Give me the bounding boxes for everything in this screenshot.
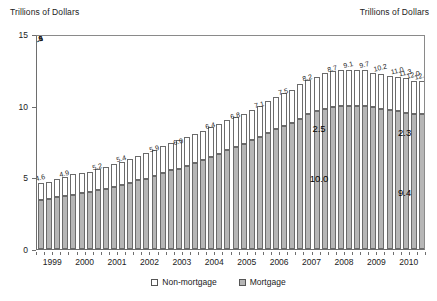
bar-segment-mortgage[interactable] xyxy=(233,147,239,249)
bar-segment-mortgage[interactable] xyxy=(346,106,352,249)
bar-segment-mortgage[interactable] xyxy=(127,183,133,249)
bar-segment-mortgage[interactable] xyxy=(79,193,85,249)
bar-segment-mortgage[interactable] xyxy=(160,173,166,249)
stacked-bar[interactable] xyxy=(38,183,44,249)
bar-segment-non-mortgage[interactable] xyxy=(38,183,44,200)
bar-segment-mortgage[interactable] xyxy=(168,170,174,249)
bar-segment-mortgage[interactable] xyxy=(387,110,393,249)
bar-segment-non-mortgage[interactable] xyxy=(322,73,328,109)
bar-segment-mortgage[interactable] xyxy=(281,126,287,249)
bar-segment-non-mortgage[interactable] xyxy=(79,173,85,193)
bar-segment-non-mortgage[interactable] xyxy=(111,164,117,187)
stacked-bar[interactable] xyxy=(135,156,141,249)
stacked-bar[interactable] xyxy=(322,73,328,249)
bar-segment-mortgage[interactable] xyxy=(289,123,295,249)
stacked-bar[interactable] xyxy=(119,162,125,249)
bar-segment-non-mortgage[interactable] xyxy=(95,169,101,191)
stacked-bar[interactable] xyxy=(200,131,206,249)
stacked-bar[interactable] xyxy=(241,114,247,249)
bar-segment-non-mortgage[interactable] xyxy=(192,134,198,163)
bar-segment-mortgage[interactable] xyxy=(152,176,158,249)
stacked-bar[interactable] xyxy=(192,134,198,249)
bar-segment-mortgage[interactable] xyxy=(378,109,384,249)
bar-segment-mortgage[interactable] xyxy=(265,133,271,249)
bar-segment-mortgage[interactable] xyxy=(273,129,279,249)
legend-item[interactable]: Non-mortgage xyxy=(151,277,216,287)
stacked-bar[interactable] xyxy=(233,117,239,249)
stacked-bar[interactable] xyxy=(224,120,230,249)
bar-segment-mortgage[interactable] xyxy=(143,179,149,249)
stacked-bar[interactable] xyxy=(87,172,93,249)
bar-segment-mortgage[interactable] xyxy=(241,144,247,249)
bar-segment-mortgage[interactable] xyxy=(249,140,255,249)
stacked-bar[interactable] xyxy=(395,77,401,249)
stacked-bar[interactable] xyxy=(305,80,311,249)
bar-segment-mortgage[interactable] xyxy=(46,199,52,249)
stacked-bar[interactable] xyxy=(127,159,133,249)
stacked-bar[interactable] xyxy=(289,90,295,249)
bar-segment-mortgage[interactable] xyxy=(354,106,360,249)
stacked-bar[interactable] xyxy=(168,143,174,249)
bar-segment-mortgage[interactable] xyxy=(419,114,424,249)
stacked-bar[interactable] xyxy=(346,70,352,249)
bar-segment-mortgage[interactable] xyxy=(411,114,417,249)
stacked-bar[interactable] xyxy=(79,173,85,249)
stacked-bar[interactable] xyxy=(297,84,303,249)
legend-item[interactable]: Mortgage xyxy=(239,277,286,287)
bar-segment-mortgage[interactable] xyxy=(362,106,368,249)
bar-segment-mortgage[interactable] xyxy=(176,169,182,249)
bar-segment-non-mortgage[interactable] xyxy=(143,153,149,179)
bar-segment-non-mortgage[interactable] xyxy=(411,81,417,114)
bar-segment-non-mortgage[interactable] xyxy=(354,70,360,106)
bar-segment-non-mortgage[interactable] xyxy=(289,90,295,123)
stacked-bar[interactable] xyxy=(208,127,214,249)
bar-segment-mortgage[interactable] xyxy=(111,187,117,249)
stacked-bar[interactable] xyxy=(249,110,255,249)
stacked-bar[interactable] xyxy=(378,74,384,249)
bar-segment-non-mortgage[interactable] xyxy=(87,172,93,192)
bar-segment-non-mortgage[interactable] xyxy=(362,70,368,106)
bar-segment-mortgage[interactable] xyxy=(216,154,222,249)
bar-segment-non-mortgage[interactable] xyxy=(70,174,76,194)
bar-segment-mortgage[interactable] xyxy=(62,196,68,249)
stacked-bar[interactable] xyxy=(216,124,222,249)
bar-segment-mortgage[interactable] xyxy=(95,190,101,249)
stacked-bar[interactable] xyxy=(62,177,68,249)
stacked-bar[interactable] xyxy=(257,106,263,249)
bar-segment-mortgage[interactable] xyxy=(184,166,190,249)
bar-segment-non-mortgage[interactable] xyxy=(184,137,190,166)
bar-segment-non-mortgage[interactable] xyxy=(62,177,68,196)
bar-segment-mortgage[interactable] xyxy=(103,189,109,249)
bar-segment-non-mortgage[interactable] xyxy=(387,76,393,110)
bar-segment-non-mortgage[interactable] xyxy=(208,127,214,157)
stacked-bar[interactable] xyxy=(330,71,336,249)
stacked-bar[interactable] xyxy=(354,70,360,249)
stacked-bar[interactable] xyxy=(265,101,271,249)
bar-segment-mortgage[interactable] xyxy=(330,107,336,249)
bar-segment-non-mortgage[interactable] xyxy=(152,150,158,176)
bar-segment-non-mortgage[interactable] xyxy=(281,93,287,126)
bar-segment-mortgage[interactable] xyxy=(208,157,214,249)
stacked-bar[interactable] xyxy=(103,167,109,249)
stacked-bar[interactable] xyxy=(281,93,287,249)
bar-segment-non-mortgage[interactable] xyxy=(330,71,336,107)
bar-segment-mortgage[interactable] xyxy=(70,195,76,249)
stacked-bar[interactable] xyxy=(362,70,368,249)
stacked-bar[interactable] xyxy=(338,70,344,249)
bar-segment-non-mortgage[interactable] xyxy=(216,124,222,154)
bar-segment-non-mortgage[interactable] xyxy=(103,167,109,189)
stacked-bar[interactable] xyxy=(46,182,52,249)
bar-segment-non-mortgage[interactable] xyxy=(395,77,401,111)
stacked-bar[interactable] xyxy=(54,179,60,249)
bar-segment-non-mortgage[interactable] xyxy=(265,101,271,133)
bar-segment-mortgage[interactable] xyxy=(135,180,141,249)
bar-segment-non-mortgage[interactable] xyxy=(305,80,311,114)
bar-segment-non-mortgage[interactable] xyxy=(346,70,352,106)
stacked-bar[interactable] xyxy=(152,150,158,249)
bar-segment-non-mortgage[interactable] xyxy=(314,77,320,111)
bar-segment-non-mortgage[interactable] xyxy=(160,146,166,173)
stacked-bar[interactable] xyxy=(314,77,320,249)
bar-segment-mortgage[interactable] xyxy=(192,163,198,249)
bar-segment-non-mortgage[interactable] xyxy=(419,81,424,114)
stacked-bar[interactable] xyxy=(419,81,424,249)
